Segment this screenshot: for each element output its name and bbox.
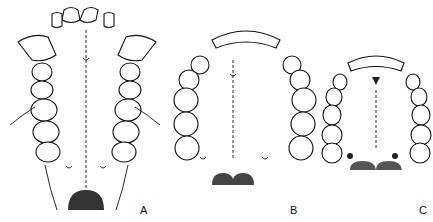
arch-c (322, 56, 431, 170)
panel-label-b: B (290, 204, 297, 216)
panel-label-c: C (419, 204, 427, 216)
dental-arches-diagram (0, 0, 433, 222)
arch-b (174, 31, 316, 185)
arch-a (10, 8, 160, 211)
panel-label-a: A (140, 204, 147, 216)
